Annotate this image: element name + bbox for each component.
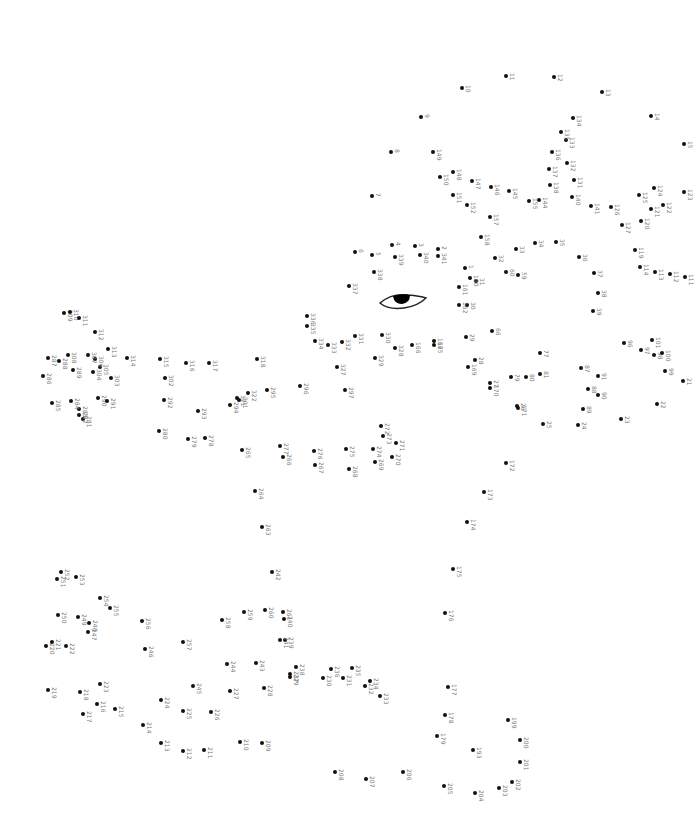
dot-number-label: 226 xyxy=(214,709,220,720)
puzzle-dot xyxy=(436,254,440,258)
dot-number-label: 66 xyxy=(495,328,501,336)
dot-number-label: 136 xyxy=(555,149,561,160)
dot-number-label: 167 xyxy=(437,338,443,349)
dot-number-label: 338 xyxy=(377,269,383,280)
dot-number-label: 261 xyxy=(286,609,292,620)
dot-number-label: 179 xyxy=(440,733,446,744)
puzzle-dot xyxy=(507,189,511,193)
puzzle-dot xyxy=(57,359,61,363)
puzzle-dot xyxy=(64,644,68,648)
puzzle-dot xyxy=(565,161,569,165)
dot-number-label: 241 xyxy=(283,637,289,648)
puzzle-dot xyxy=(538,372,542,376)
puzzle-dot xyxy=(649,207,653,211)
dot-number-label: 11 xyxy=(509,73,515,81)
puzzle-dot xyxy=(438,175,442,179)
dot-number-label: 1 xyxy=(468,265,474,269)
puzzle-dot xyxy=(125,356,129,360)
puzzle-dot xyxy=(220,618,224,622)
dot-number-label: 308 xyxy=(71,352,77,363)
dot-number-label: 22 xyxy=(660,401,666,409)
dot-number-label: 112 xyxy=(673,271,679,282)
puzzle-dot xyxy=(347,284,351,288)
puzzle-dot xyxy=(552,75,556,79)
dot-number-label: 327 xyxy=(340,364,346,375)
puzzle-dot xyxy=(209,710,213,714)
puzzle-dot xyxy=(363,684,367,688)
puzzle-dot xyxy=(596,393,600,397)
dot-number-label: 217 xyxy=(86,711,92,722)
puzzle-dot xyxy=(163,376,167,380)
puzzle-dot xyxy=(446,685,450,689)
puzzle-dot xyxy=(451,170,455,174)
dot-number-label: 148 xyxy=(456,169,462,180)
dot-number-label: 210 xyxy=(243,739,249,750)
puzzle-dot xyxy=(622,341,626,345)
puzzle-dot xyxy=(488,215,492,219)
dot-number-label: 331 xyxy=(358,333,364,344)
puzzle-dot xyxy=(682,190,686,194)
puzzle-dot xyxy=(62,311,66,315)
dot-number-label: 36 xyxy=(582,254,588,262)
puzzle-dot xyxy=(93,330,97,334)
dot-number-label: 207 xyxy=(369,776,375,787)
dot-number-label: 318 xyxy=(260,356,266,367)
puzzle-dot xyxy=(98,682,102,686)
puzzle-dot xyxy=(74,575,78,579)
puzzle-dot xyxy=(473,358,477,362)
puzzle-dot xyxy=(681,379,685,383)
dot-number-label: 231 xyxy=(346,675,352,686)
puzzle-dot xyxy=(141,723,145,727)
puzzle-dot xyxy=(255,357,259,361)
puzzle-dot xyxy=(435,734,439,738)
puzzle-dot xyxy=(106,347,110,351)
puzzle-dot xyxy=(242,610,246,614)
dot-number-label: 286 xyxy=(46,373,52,384)
puzzle-dot xyxy=(390,455,394,459)
dot-number-label: 315 xyxy=(163,356,169,367)
dot-number-label: 224 xyxy=(164,697,170,708)
puzzle-dot xyxy=(463,266,467,270)
dot-number-label: 39 xyxy=(596,308,602,316)
puzzle-dot xyxy=(340,340,344,344)
puzzle-dot xyxy=(305,324,309,328)
dot-number-label: 80 xyxy=(529,374,535,382)
puzzle-dot xyxy=(353,334,357,338)
puzzle-dot xyxy=(596,291,600,295)
puzzle-dot xyxy=(181,709,185,713)
puzzle-dot xyxy=(71,368,75,372)
dot-number-label: 328 xyxy=(398,345,404,356)
dot-number-label: 313 xyxy=(111,346,117,357)
puzzle-dot xyxy=(263,608,267,612)
puzzle-dot xyxy=(66,353,70,357)
puzzle-dot xyxy=(533,241,537,245)
puzzle-dot xyxy=(253,489,257,493)
dot-number-label: 275 xyxy=(349,446,355,457)
dot-number-label: 259 xyxy=(247,609,253,620)
puzzle-dot xyxy=(235,396,239,400)
dot-number-label: 270 xyxy=(395,454,401,465)
dot-number-label: 35 xyxy=(559,239,565,247)
puzzle-dot xyxy=(76,615,80,619)
dot-number-label: 211 xyxy=(207,747,213,758)
puzzle-dot xyxy=(246,391,250,395)
dot-number-label: 147 xyxy=(475,178,481,189)
puzzle-dot xyxy=(312,449,316,453)
dot-number-label: 206 xyxy=(406,769,412,780)
dot-number-label: 138 xyxy=(553,182,559,193)
dot-number-label: 77 xyxy=(543,350,549,358)
puzzle-dot xyxy=(344,447,348,451)
puzzle-dot xyxy=(207,361,211,365)
dot-number-label: 292 xyxy=(167,397,173,408)
dot-number-label: 212 xyxy=(186,748,192,759)
dot-number-label: 135 xyxy=(564,129,570,140)
puzzle-dot xyxy=(95,702,99,706)
dot-number-label: 253 xyxy=(79,574,85,585)
puzzle-dot xyxy=(228,689,232,693)
puzzle-dot xyxy=(464,335,468,339)
puzzle-dot xyxy=(298,384,302,388)
dot-number-label: 201 xyxy=(523,759,529,770)
dot-number-label: 280 xyxy=(162,428,168,439)
dot-number-label: 289 xyxy=(76,367,82,378)
dot-number-label: 218 xyxy=(83,689,89,700)
